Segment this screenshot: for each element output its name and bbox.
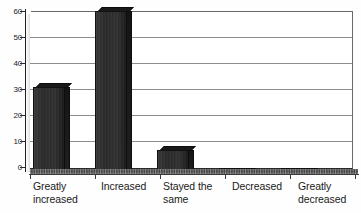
x-axis-category-label-increased: Increased <box>101 180 165 193</box>
bar-group-stayed-the-same <box>157 11 195 169</box>
y-axis-tick-label: 40 <box>14 60 23 68</box>
y-axis-tick-label: 30 <box>14 86 23 94</box>
x-axis-category-label-greatly-decreased: Greatly decreased <box>298 180 361 205</box>
x-axis-tick-mark <box>290 174 291 179</box>
bars-container <box>29 11 353 169</box>
bar-side-face <box>188 150 194 169</box>
y-axis-tick-label: 50 <box>14 34 23 42</box>
x-axis-tick-mark <box>30 174 31 179</box>
bar-group-decreased <box>219 11 257 169</box>
x-axis-category-label-decreased: Decreased <box>232 180 296 193</box>
y-axis-tick-label: 0 <box>18 164 22 172</box>
x-axis-tick-mark <box>95 174 96 179</box>
bar-chart: 60 50 40 30 20 10 0 <box>0 0 361 213</box>
bar-group-greatly-decreased <box>281 11 319 169</box>
y-axis-tick-label: 60 <box>14 8 23 16</box>
x-axis-category-label-stayed-the-same: Stayed the same <box>163 180 227 205</box>
y-axis-tick-label: 20 <box>14 112 23 120</box>
y-axis-tick-label: 10 <box>14 138 23 146</box>
bar-group-increased <box>95 11 133 169</box>
x-axis-tick-mark <box>225 174 226 179</box>
x-axis-tick-mark <box>355 174 356 179</box>
bar-stayed-the-same <box>157 150 189 169</box>
bar-greatly-increased <box>33 87 65 169</box>
x-axis-category-label-greatly-increased: Greatly increased <box>33 180 97 205</box>
x-axis-tick-mark <box>160 174 161 179</box>
bar-group-greatly-increased <box>33 11 71 169</box>
bar-side-face <box>64 87 70 169</box>
x-axis-labels: Greatly increased Increased Stayed the s… <box>0 180 361 213</box>
bar-side-face <box>126 11 132 169</box>
x-axis-line <box>29 174 359 175</box>
bar-increased <box>95 11 127 169</box>
